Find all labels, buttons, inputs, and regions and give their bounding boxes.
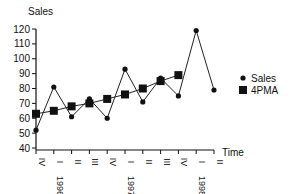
sales-point-marker (122, 67, 127, 72)
x-tick-label: I (55, 161, 65, 164)
x-tick-label: II (144, 159, 154, 164)
4pma-point-marker (157, 77, 165, 85)
legend-circle-icon (240, 75, 245, 80)
x-tick-label: III (162, 158, 172, 166)
x-tick-label: IV (108, 158, 118, 167)
sales-point-marker (69, 114, 74, 119)
4pma-point-marker (50, 107, 58, 115)
x-tick-label: III (90, 158, 100, 166)
4pma-point-marker (32, 110, 40, 118)
legend-label: 4PMA (251, 85, 279, 96)
y-tick-label: 70 (19, 98, 31, 109)
x-tick-label: I (197, 161, 207, 164)
y-axis: 405060708090100110120 (13, 24, 36, 154)
4pma-point-marker (139, 85, 147, 93)
legend-square-icon (239, 86, 247, 94)
4pma-point-marker (174, 71, 182, 79)
x-axis-label: Time (222, 147, 244, 158)
sales-point-marker (194, 28, 199, 33)
4pma-point-marker (68, 102, 76, 110)
sales-point-marker (105, 116, 110, 121)
sales-chart: Sales 405060708090100110120 IVIIIIIIIVII… (0, 0, 290, 194)
sales-point-marker (211, 87, 216, 92)
plot-area (32, 28, 217, 133)
4pma-point-marker (85, 99, 93, 107)
series-line-sales (36, 30, 214, 130)
sales-point-marker (33, 128, 38, 133)
year-label: 1997 (126, 176, 136, 194)
y-tick-label: 50 (19, 128, 31, 139)
x-tick-label: IV (179, 158, 189, 167)
x-tick-label: IV (37, 158, 47, 167)
y-tick-label: 90 (19, 68, 31, 79)
x-tick-label: II (73, 159, 83, 164)
sales-point-marker (140, 99, 145, 104)
y-tick-label: 60 (19, 113, 31, 124)
4pma-point-marker (121, 90, 129, 98)
y-tick-label: 110 (14, 38, 30, 49)
sales-point-marker (176, 93, 181, 98)
4pma-point-marker (103, 95, 111, 103)
y-tick-label: 120 (13, 24, 30, 35)
sales-point-marker (51, 84, 56, 89)
x-axis: IVIIIIIIIVIIIIIIIVIII199619971998 (36, 150, 225, 194)
y-tick-label: 100 (13, 53, 30, 64)
y-tick-label: 40 (19, 143, 31, 154)
year-label: 1998 (197, 176, 207, 194)
x-tick-label: II (215, 159, 225, 164)
y-axis-label: Sales (28, 6, 53, 17)
legend-label: Sales (251, 73, 276, 84)
x-tick-label: I (126, 161, 136, 164)
y-tick-label: 80 (19, 83, 31, 94)
legend: Sales4PMA (239, 73, 279, 96)
year-label: 1996 (55, 176, 65, 194)
